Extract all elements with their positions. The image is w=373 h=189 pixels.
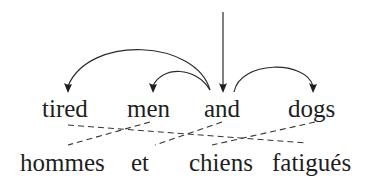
target-word-chiens: chiens bbox=[189, 150, 253, 175]
source-word-dogs: dogs bbox=[288, 96, 335, 121]
arc-and-to-dogs bbox=[234, 67, 317, 93]
root-arrow bbox=[219, 12, 227, 93]
arc-and-to-tired bbox=[64, 50, 210, 93]
alignment-tired-fatigues bbox=[68, 125, 307, 143]
target-word-hommes: hommes bbox=[20, 150, 105, 175]
alignment-and-et bbox=[155, 122, 222, 145]
arc-and-to-men bbox=[149, 71, 210, 93]
source-word-men: men bbox=[127, 96, 170, 121]
target-word-et: et bbox=[131, 150, 149, 175]
source-word-tired: tired bbox=[42, 96, 88, 121]
alignment-dogs-chiens bbox=[212, 122, 315, 145]
target-word-fatigues: fatigués bbox=[272, 150, 351, 175]
source-word-and: and bbox=[204, 96, 240, 121]
